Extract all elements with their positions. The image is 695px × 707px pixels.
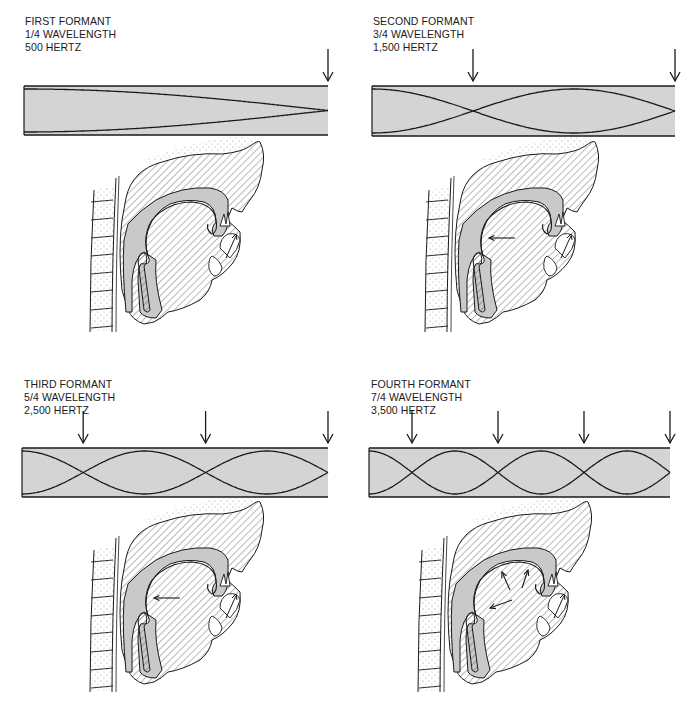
vocal-tract-illustration [347, 0, 695, 350]
vocal-tract-illustration [0, 0, 347, 350]
vocal-tract-illustration [347, 350, 695, 707]
vocal-tract-illustration [0, 350, 347, 707]
panel-fourth-formant: FOURTH FORMANT 7/4 WAVELENGTH 3,500 HERT… [347, 350, 695, 707]
spine-vertebrae [90, 176, 119, 332]
panel-second-formant: SECOND FORMANT 3/4 WAVELENGTH 1,500 HERT… [347, 0, 695, 350]
spine-vertebrae [418, 536, 447, 692]
spine-vertebrae [425, 176, 454, 332]
panel-third-formant: THIRD FORMANT 5/4 WAVELENGTH 2,500 HERTZ [0, 350, 347, 707]
panel-first-formant: FIRST FORMANT 1/4 WAVELENGTH 500 HERTZ [0, 0, 347, 350]
spine-vertebrae [90, 536, 119, 692]
